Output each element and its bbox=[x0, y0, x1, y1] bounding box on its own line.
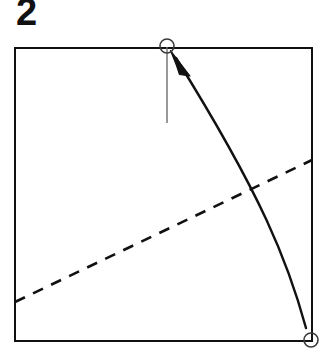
origami-step-figure: 2 bbox=[0, 0, 327, 363]
paper-square bbox=[15, 48, 312, 341]
fold-diagram-canvas bbox=[0, 0, 327, 363]
dashed-fold-line bbox=[15, 160, 312, 302]
curved-fold-arrow-head bbox=[171, 51, 191, 77]
